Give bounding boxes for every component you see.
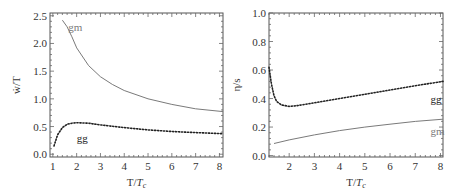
x-tick-label: 5 xyxy=(362,160,368,172)
x-tick-label: 6 xyxy=(387,160,393,172)
x-tick-label: 3 xyxy=(98,160,104,172)
x-tick-label: 8 xyxy=(438,160,444,172)
x-tick-label: 7 xyxy=(413,160,419,172)
x-tick-label: 5 xyxy=(145,160,151,172)
series-gg xyxy=(269,67,443,106)
x-axis-label: T/Tc xyxy=(346,176,366,190)
series-gm xyxy=(62,20,223,111)
y-tick-label: 0.6 xyxy=(252,64,266,76)
x-axis-label: T/Tc xyxy=(127,176,147,190)
x-tick-label: 4 xyxy=(121,160,127,172)
y-tick-label: 2.5 xyxy=(33,10,47,22)
x-tick-label: 3 xyxy=(312,160,318,172)
x-tick-label: 2 xyxy=(286,160,292,172)
y-tick-label: 0.4 xyxy=(252,93,266,105)
y-tick-label: 2.0 xyxy=(33,37,47,49)
curve-label-gm: gm xyxy=(68,21,83,33)
x-tick-label: 4 xyxy=(337,160,343,172)
y-tick-label: 0.2 xyxy=(252,121,266,133)
x-tick-label: 6 xyxy=(169,160,175,172)
series-gm xyxy=(274,119,443,143)
y-tick-label: 1.5 xyxy=(33,65,47,77)
right-chart-panel: 23456780.00.20.40.60.81.0T/Tcη/sgggm xyxy=(230,7,445,190)
curve-label-gg: gg xyxy=(77,132,89,144)
x-tick-label: 7 xyxy=(193,160,199,172)
x-tick-label: 8 xyxy=(217,160,223,172)
y-tick-label: 0.0 xyxy=(252,150,266,162)
y-axis-label: η/s xyxy=(230,78,242,91)
y-tick-label: 1.0 xyxy=(33,93,47,105)
curve-label-gg: gg xyxy=(430,93,442,105)
y-tick-label: 0.5 xyxy=(33,121,47,133)
y-axis-label: ẇ/T xyxy=(10,76,22,94)
y-tick-label: 0.0 xyxy=(33,148,47,160)
y-tick-label: 0.8 xyxy=(252,36,266,48)
left-chart-panel: 123456780.00.51.01.52.02.5T/Tcẇ/Tgmgg xyxy=(10,10,223,190)
curve-label-gm: gm xyxy=(430,125,445,137)
figure: 123456780.00.51.01.52.02.5T/Tcẇ/Tgmgg 23… xyxy=(0,0,460,194)
y-tick-label: 1.0 xyxy=(252,7,266,19)
x-tick-label: 2 xyxy=(74,160,80,172)
x-tick-label: 1 xyxy=(50,160,56,172)
